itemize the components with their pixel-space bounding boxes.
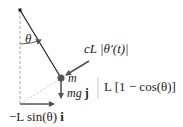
horizontal-label: −L sin(θ) i	[9, 110, 64, 123]
horizontal-unit-vector: i	[60, 109, 64, 124]
diagonal-dashed-line	[20, 79, 60, 104]
pendulum-bob	[58, 75, 65, 82]
gravity-label-text: mg	[67, 86, 82, 100]
height-label: L [1 − cos(θ)]	[104, 80, 176, 93]
damping-force-label: cL |θ′(t)|	[84, 42, 129, 55]
diagram-graphics	[0, 0, 183, 127]
gravity-label: mg j	[67, 87, 89, 99]
horizontal-label-text: −L sin(θ)	[9, 109, 57, 124]
pivot-point	[19, 9, 22, 12]
theta-label: θ	[25, 32, 31, 45]
gravity-unit-vector: j	[85, 86, 89, 100]
mass-label: m	[68, 72, 77, 84]
pendulum-diagram: θ cL |θ′(t)| m mg j L [1 − cos(θ)] −L si…	[0, 0, 183, 127]
